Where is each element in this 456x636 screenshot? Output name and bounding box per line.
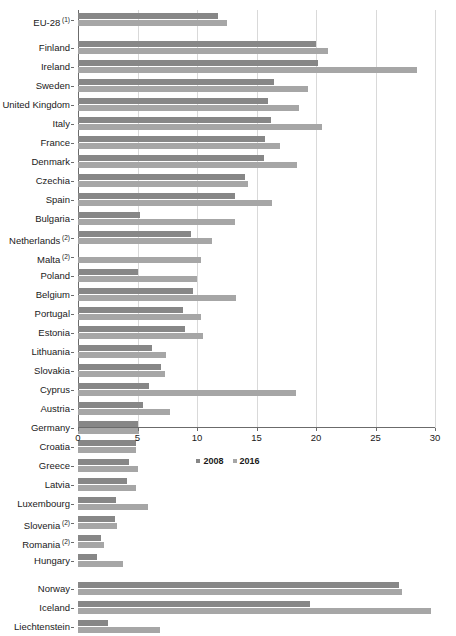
bar-2016	[78, 67, 417, 73]
y-axis-label: Denmark	[31, 152, 70, 171]
bar-2008	[78, 364, 161, 370]
y-axis-tick	[71, 314, 74, 315]
legend-item-2008[interactable]: 2008	[196, 456, 223, 466]
bar-2008	[78, 307, 183, 313]
bar-row	[78, 190, 435, 209]
bar-row	[78, 399, 435, 418]
bar-2016	[78, 200, 272, 206]
y-axis-tick	[71, 466, 74, 467]
y-axis-label: United Kingdom	[2, 95, 70, 114]
bar-row	[78, 209, 435, 228]
legend-label: 2016	[240, 456, 260, 466]
y-axis-tick	[71, 200, 74, 201]
bar-row	[78, 152, 435, 171]
y-axis-labels: EU-28 (1)FinlandIrelandSwedenUnited King…	[0, 10, 74, 428]
y-axis-tick	[71, 143, 74, 144]
bar-row	[78, 171, 435, 190]
x-axis-tick-label: 0	[75, 432, 80, 443]
y-axis-label: Liechtenstein	[14, 617, 70, 636]
bar-2016	[78, 219, 235, 225]
y-axis-tick	[71, 428, 74, 429]
x-axis-tick	[257, 428, 258, 431]
gridline	[435, 10, 436, 428]
bar-row	[78, 598, 435, 617]
bar-2016	[78, 352, 166, 358]
y-axis-label: Slovenia (2)	[24, 513, 70, 532]
bar-row	[78, 475, 435, 494]
y-axis-tick	[71, 504, 74, 505]
legend-swatch-icon	[233, 459, 237, 463]
bar-2016	[78, 314, 201, 320]
bar-row	[78, 285, 435, 304]
y-axis-label: Poland	[40, 266, 70, 285]
y-axis-tick	[71, 295, 74, 296]
bar-2016	[78, 143, 280, 149]
bar-row	[78, 579, 435, 598]
bar-2016	[78, 589, 402, 595]
bar-2008	[78, 516, 115, 522]
bar-row	[78, 380, 435, 399]
bar-2016	[78, 181, 248, 187]
bar-2008	[78, 497, 116, 503]
bar-row	[78, 617, 435, 636]
y-axis-tick	[71, 523, 74, 524]
bar-2008	[78, 117, 271, 123]
bar-2008	[78, 193, 235, 199]
bar-2016	[78, 238, 212, 244]
y-axis-label: Slovakia	[34, 361, 70, 380]
bar-2016	[78, 371, 165, 377]
legend-item-2016[interactable]: 2016	[233, 456, 260, 466]
y-axis-label: Netherlands (2)	[9, 228, 70, 247]
bar-row	[78, 323, 435, 342]
y-axis-label: Czechia	[36, 171, 70, 190]
y-axis-tick	[71, 238, 74, 239]
y-axis-label: Norway	[38, 579, 70, 598]
bar-2008	[78, 478, 127, 484]
y-axis-label: Croatia	[39, 437, 70, 456]
y-axis-tick	[71, 333, 74, 334]
bar-row	[78, 10, 435, 29]
y-axis-label: Sweden	[36, 76, 70, 95]
x-axis: 051015202530	[78, 428, 435, 448]
bar-row	[78, 228, 435, 247]
bar-2008	[78, 60, 318, 66]
bar-2016	[78, 20, 227, 26]
y-axis-label: Lithuania	[31, 342, 70, 361]
bar-row	[78, 361, 435, 380]
bar-2008	[78, 554, 97, 560]
bar-2016	[78, 105, 299, 111]
x-axis-tick	[435, 428, 436, 431]
bar-2016	[78, 561, 123, 567]
y-axis-label: Finland	[39, 38, 70, 57]
plot-area	[78, 10, 435, 428]
bar-row	[78, 551, 435, 570]
y-axis-tick	[71, 561, 74, 562]
bar-2008	[78, 231, 191, 237]
bar-2016	[78, 504, 148, 510]
bar-2016	[78, 333, 203, 339]
bar-2008	[78, 345, 152, 351]
bar-2016	[78, 276, 197, 282]
y-axis-tick	[71, 371, 74, 372]
bar-2008	[78, 155, 264, 161]
y-axis-label: Italy	[53, 114, 70, 133]
bar-row	[78, 133, 435, 152]
y-axis-label: Latvia	[45, 475, 70, 494]
y-axis-tick	[71, 67, 74, 68]
bar-2008	[78, 98, 268, 104]
bar-2008	[78, 383, 149, 389]
bar-2008	[78, 326, 185, 332]
x-axis-tick	[197, 428, 198, 431]
y-axis-label: EU-28 (1)	[33, 10, 70, 29]
y-axis-tick	[71, 181, 74, 182]
y-axis-tick	[71, 352, 74, 353]
y-axis-label: Portugal	[35, 304, 70, 323]
bar-2008	[78, 535, 101, 541]
x-axis-tick-label: 20	[311, 432, 322, 443]
bar-2008	[78, 402, 143, 408]
x-axis-tick	[316, 428, 317, 431]
y-axis-tick	[71, 20, 74, 21]
bar-2016	[78, 409, 170, 415]
y-axis-tick	[71, 447, 74, 448]
bar-2008	[78, 269, 138, 275]
